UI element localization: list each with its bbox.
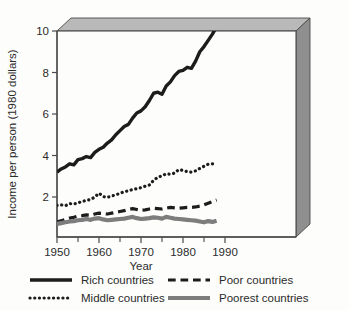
legend-label: Middle countries — [81, 292, 165, 304]
figure-root: 246810Income per person (1980 dollars)19… — [0, 0, 349, 310]
frame-right-bevel — [296, 18, 310, 237]
y-tick-label: 4 — [43, 150, 50, 162]
x-tick-label: 1970 — [128, 246, 154, 258]
legend-label: Rich countries — [81, 274, 154, 286]
x-tick-label: 1960 — [86, 246, 112, 258]
x-tick-label: 1950 — [44, 246, 70, 258]
y-tick-label: 8 — [43, 67, 49, 79]
x-tick-label: 1990 — [212, 246, 238, 258]
chart-legend: Rich countriesPoor countriesMiddle count… — [0, 266, 349, 310]
legend-label: Poor countries — [219, 274, 293, 286]
y-axis: 246810 — [36, 25, 57, 203]
y-tick-label: 2 — [43, 191, 49, 203]
x-axis: 19501960197019801990 — [44, 237, 238, 258]
y-axis-title: Income per person (1980 dollars) — [6, 49, 18, 219]
plot-face — [57, 31, 296, 237]
legend-svg: Rich countriesPoor countriesMiddle count… — [0, 266, 349, 310]
y-tick-label: 10 — [36, 25, 49, 37]
legend-label: Poorest countries — [219, 292, 309, 304]
x-tick-label: 1980 — [170, 246, 196, 258]
y-tick-label: 6 — [43, 108, 49, 120]
line-chart: 246810Income per person (1980 dollars)19… — [0, 0, 349, 270]
chart-area: 246810Income per person (1980 dollars)19… — [0, 0, 349, 270]
frame-top-bevel — [57, 18, 310, 31]
chart-frame-3d — [57, 18, 310, 237]
